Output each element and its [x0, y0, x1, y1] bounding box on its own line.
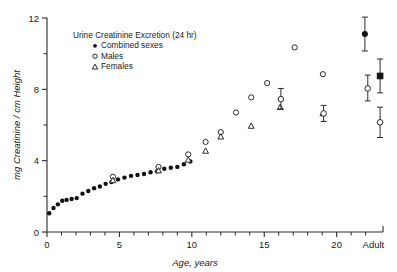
- data-point-open-circle: [249, 95, 254, 100]
- data-point-filled-circle: [92, 186, 96, 190]
- data-point-filled-circle: [129, 174, 133, 178]
- data-point-filled-circle: [122, 175, 126, 179]
- data-point-filled-circle: [86, 189, 90, 193]
- x-axis-title: Age, years: [171, 257, 218, 268]
- x-tick-label: 10: [187, 239, 198, 250]
- data-point-filled-square: [377, 73, 383, 79]
- scatter-plot: 0481205101520AdultAge, yearsmg Creatinin…: [0, 0, 397, 272]
- data-point-filled-circle: [175, 165, 179, 169]
- data-point-filled-circle: [103, 182, 107, 186]
- data-point-filled-circle: [60, 199, 64, 203]
- x-tick-label: 5: [117, 239, 122, 250]
- data-point-filled-circle: [80, 191, 84, 195]
- x-tick-label: 20: [331, 239, 342, 250]
- data-point-open-circle: [203, 139, 208, 144]
- axis-lines: [47, 18, 383, 232]
- data-point-filled-circle: [135, 173, 139, 177]
- legend-marker-filled-circle: [93, 44, 97, 48]
- data-point-open-circle: [365, 86, 371, 92]
- data-point-open-circle: [320, 72, 325, 77]
- data-point-filled-circle: [64, 198, 68, 202]
- y-tick-label: 12: [28, 13, 39, 24]
- data-point-filled-circle: [47, 211, 51, 215]
- x-tick-label: 15: [259, 239, 270, 250]
- data-point-filled-circle: [148, 170, 152, 174]
- data-point-filled-circle: [98, 184, 102, 188]
- x-tick-label-adult: Adult: [363, 239, 385, 250]
- data-point-filled-circle: [116, 177, 120, 181]
- data-point-open-circle: [233, 110, 238, 115]
- figure-container: 0481205101520AdultAge, yearsmg Creatinin…: [0, 0, 397, 272]
- y-tick-label: 4: [34, 155, 39, 166]
- y-tick-label: 8: [34, 84, 39, 95]
- data-point-filled-circle: [74, 196, 78, 200]
- data-point-filled-circle: [142, 172, 146, 176]
- legend-marker-open-triangle: [92, 64, 97, 69]
- data-point-open-triangle: [203, 148, 209, 153]
- data-point-open-circle: [377, 120, 383, 126]
- y-tick-label: 0: [34, 227, 39, 238]
- legend-item-label: Combined sexes: [101, 40, 163, 50]
- data-point-open-circle: [278, 96, 284, 102]
- data-point-open-circle: [292, 45, 297, 50]
- legend-item-label: Males: [101, 51, 123, 61]
- x-tick-label: 0: [44, 239, 49, 250]
- data-point-filled-circle: [169, 166, 173, 170]
- y-axis-title: mg Creatinine / cm Height: [11, 70, 22, 180]
- data-point-filled-circle: [56, 202, 60, 206]
- data-point-filled-circle: [162, 166, 166, 170]
- data-point-filled-circle: [69, 197, 73, 201]
- data-point-open-circle: [265, 80, 270, 85]
- data-point-open-triangle: [218, 134, 224, 139]
- data-point-filled-circle: [51, 206, 55, 210]
- legend-item-label: Females: [101, 61, 133, 71]
- legend-title: Urine Creatinine Excretion (24 hr): [73, 30, 197, 40]
- data-point-open-circle: [321, 111, 327, 117]
- legend-marker-open-circle: [93, 54, 97, 58]
- data-point-filled-circle: [362, 31, 368, 37]
- data-point-filled-circle: [182, 162, 186, 166]
- data-point-open-triangle: [248, 123, 254, 128]
